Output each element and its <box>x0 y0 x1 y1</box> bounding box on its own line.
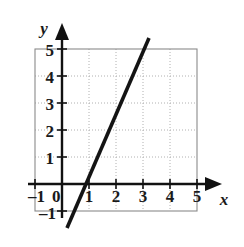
x-tick-label-3: 3 <box>139 187 148 206</box>
y-tick-label-2: 2 <box>46 122 55 141</box>
x-tick-label-4: 4 <box>166 187 175 206</box>
y-tick-label-4: 4 <box>46 68 55 87</box>
y-tick-label-5: 5 <box>46 41 55 60</box>
y-tick-label-3: 3 <box>46 95 55 114</box>
figure-background <box>0 0 244 247</box>
y-tick-label-1: 1 <box>46 149 55 168</box>
x-tick-label-1: 1 <box>85 187 94 206</box>
x-tick-label-5: 5 <box>193 187 202 206</box>
coordinate-plane-figure: 5 4 3 2 1 –1 –1 0 1 2 3 4 5 y x <box>0 0 244 247</box>
x-axis-label: x <box>219 190 229 209</box>
y-tick-label-neg1: –1 <box>38 204 56 223</box>
x-tick-label-neg1: –1 <box>27 187 45 206</box>
x-tick-label-2: 2 <box>112 187 121 206</box>
x-tick-label-0: 0 <box>52 187 61 206</box>
y-axis-label: y <box>38 19 48 38</box>
